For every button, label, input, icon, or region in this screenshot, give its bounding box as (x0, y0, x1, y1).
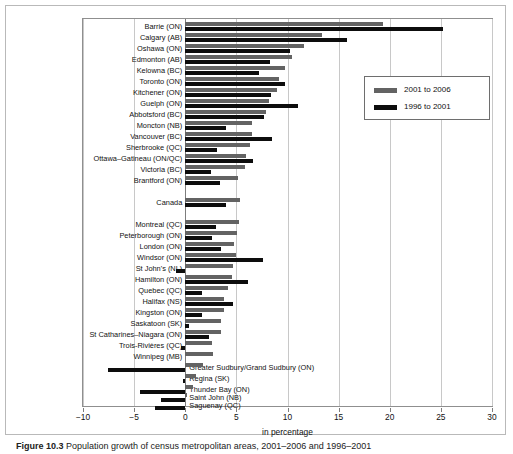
bar-2001-2006 (185, 286, 228, 290)
bar-1996-2001 (185, 203, 226, 207)
bar-1996-2001 (176, 269, 185, 273)
bar-2001-2006 (185, 121, 251, 125)
legend-label-2001-2006: 2001 to 2006 (404, 84, 451, 96)
bar-2001-2006 (185, 330, 221, 334)
bar-1996-2001 (185, 159, 252, 163)
bar-2001-2006 (185, 66, 285, 70)
gridline-30 (492, 19, 493, 406)
bar-2001-2006 (185, 385, 193, 389)
bar-1996-2001 (185, 60, 270, 64)
bar-2001-2006 (185, 253, 236, 257)
bar-2001-2006 (185, 88, 277, 92)
bar-2001-2006 (185, 154, 245, 158)
x-tick-label--5: −5 (129, 412, 139, 423)
legend-swatch-2001-2006 (374, 88, 397, 93)
x-tick-label-15: 15 (334, 412, 343, 423)
figure-caption-number: Figure 10.3 (16, 441, 64, 451)
legend-swatch-1996-2001 (374, 105, 397, 110)
x-tick-label-20: 20 (385, 412, 394, 423)
bar-2001-2006 (185, 176, 238, 180)
x-tick-label-30: 30 (487, 412, 496, 423)
bar-1996-2001 (185, 313, 201, 317)
legend-label-1996-2001: 1996 to 2001 (404, 101, 451, 113)
bar-2001-2006 (185, 198, 240, 202)
bar-1996-2001 (185, 247, 221, 251)
bar-2001-2006 (185, 110, 266, 114)
bar-1996-2001 (185, 27, 443, 31)
bar-2001-2006 (185, 393, 187, 397)
bar-1996-2001 (185, 38, 347, 42)
bar-2001-2006 (185, 352, 213, 356)
figure-caption: Figure 10.3 Population growth of census … (16, 441, 496, 452)
bar-1996-2001 (185, 280, 247, 284)
bar-2001-2006 (185, 33, 322, 37)
bar-1996-2001 (185, 93, 271, 97)
bar-1996-2001 (185, 115, 264, 119)
bar-2001-2006 (185, 363, 202, 367)
bar-1996-2001 (185, 236, 212, 240)
bar-1996-2001 (185, 335, 209, 339)
bar-2001-2006 (185, 165, 244, 169)
bar-1996-2001 (183, 379, 185, 383)
category-label: Canada (156, 196, 185, 209)
x-tick-label-10: 10 (283, 412, 292, 423)
bar-2001-2006 (185, 77, 279, 81)
bar-1996-2001 (185, 170, 211, 174)
bar-2001-2006 (185, 308, 224, 312)
bar-1996-2001 (185, 104, 297, 108)
bar-2001-2006 (185, 374, 196, 378)
bar-2001-2006 (185, 132, 251, 136)
bar-2001-2006 (185, 297, 224, 301)
bar-1996-2001 (185, 148, 217, 152)
bar-1996-2001 (185, 324, 189, 328)
x-axis-ticks: −10−5051015202530 (82, 408, 493, 418)
x-tick-label--10: −10 (76, 412, 90, 423)
chart-row: Brantford (ON) (83, 174, 492, 187)
bar-1996-2001 (185, 258, 263, 262)
bar-1996-2001 (185, 137, 272, 141)
bar-1996-2001 (181, 346, 185, 350)
x-axis-label: in percentage (82, 427, 493, 437)
chart-legend: 2001 to 2006 1996 to 2001 (364, 76, 490, 120)
chart-plot-area: Barrie (ON)Calgary (AB)Oshawa (ON)Edmont… (82, 18, 493, 407)
bar-2001-2006 (185, 99, 269, 103)
x-tick-label-25: 25 (436, 412, 445, 423)
bar-2001-2006 (185, 264, 233, 268)
bar-2001-2006 (185, 22, 382, 26)
bar-1996-2001 (185, 71, 259, 75)
bar-2001-2006 (185, 231, 237, 235)
bar-2001-2006 (185, 275, 232, 279)
bar-1996-2001 (185, 291, 201, 295)
bar-1996-2001 (108, 368, 186, 372)
figure-frame: Barrie (ON)Calgary (AB)Oshawa (ON)Edmont… (5, 5, 506, 435)
bar-2001-2006 (185, 220, 239, 224)
bar-1996-2001 (185, 126, 226, 130)
bar-2001-2006 (185, 242, 234, 246)
bar-1996-2001 (185, 181, 220, 185)
bar-2001-2006 (185, 143, 249, 147)
bar-1996-2001 (185, 225, 216, 229)
bar-2001-2006 (185, 341, 212, 345)
x-tick-label-5: 5 (234, 412, 239, 423)
bar-2001-2006 (185, 55, 291, 59)
x-tick-label-0: 0 (183, 412, 188, 423)
bar-1996-2001 (185, 302, 233, 306)
category-label: Brantford (ON) (134, 174, 185, 187)
bar-1996-2001 (185, 49, 289, 53)
bar-1996-2001 (185, 82, 285, 86)
bar-2001-2006 (185, 44, 304, 48)
chart-row: Canada (83, 196, 492, 209)
bar-2001-2006 (185, 319, 221, 323)
figure-caption-text: Population growth of census metropolitan… (66, 441, 371, 451)
